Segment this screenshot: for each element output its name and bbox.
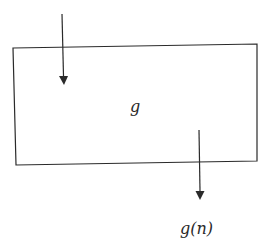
output-arrow [196,130,205,200]
diagram-canvas: g g(n) [0,0,260,238]
output-label: g(n) [180,219,213,238]
arrowhead-icon [196,191,205,200]
input-arrow [59,14,68,85]
box-label: g [130,97,140,116]
arrowhead-icon [59,76,68,85]
